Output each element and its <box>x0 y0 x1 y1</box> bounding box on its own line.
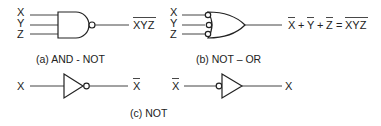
inversion-bubble-icon <box>216 83 222 89</box>
inversion-bubble-icon <box>205 31 210 36</box>
caption-b: (b) NOT – OR <box>196 53 262 65</box>
not2-output-label: X <box>285 80 293 92</box>
not-gate-input-bubble-group: X X <box>172 74 293 98</box>
or-gate-body-icon <box>208 12 245 38</box>
caption-a: (a) AND - NOT <box>36 53 105 65</box>
buffer-triangle-icon <box>64 74 83 98</box>
inversion-bubble-icon <box>205 12 210 17</box>
logic-gates-diagram: X Y Z XYZ (a) AND - NOT X Y Z X + Y <box>0 0 381 126</box>
not1-input-label: X <box>17 80 25 92</box>
expr-term-x: X <box>288 19 296 31</box>
expr-rhs: XYZ <box>345 19 367 31</box>
inversion-bubble-icon <box>206 22 211 27</box>
caption-c: (c) NOT <box>130 107 168 119</box>
nand-output-label: XYZ <box>133 19 155 31</box>
not-gate-output-bubble-group: X X <box>17 74 141 98</box>
inversion-bubble-icon <box>89 22 95 28</box>
expr-term-y: Y <box>307 19 315 31</box>
expr-term-z: Z <box>326 19 333 31</box>
expr-equals: = <box>336 19 342 31</box>
notor-input-z-label: Z <box>170 28 177 40</box>
buffer-triangle-icon <box>222 74 242 98</box>
inversion-bubble-icon <box>84 83 90 89</box>
demorgan-expression: X + Y + Z = XYZ <box>288 18 368 32</box>
expr-plus: + <box>317 19 323 31</box>
not1-output-label: X <box>133 80 141 92</box>
nand-input-z-label: Z <box>17 28 24 40</box>
and-gate-body-icon <box>58 12 89 38</box>
nand-gate-group: X Y Z XYZ (a) AND - NOT <box>17 6 156 65</box>
not-or-gate-group: X Y Z X + Y + Z = XYZ (b) NOT – OR <box>170 6 368 65</box>
not2-input-label: X <box>172 80 180 92</box>
expr-plus: + <box>298 19 304 31</box>
